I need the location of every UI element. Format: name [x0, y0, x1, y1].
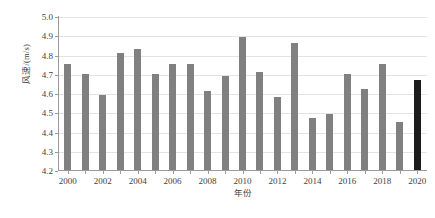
bar-2019	[396, 122, 403, 170]
x-tick-mark	[330, 171, 331, 174]
bar-2015	[326, 114, 333, 170]
bar-2006	[169, 64, 176, 170]
bar-2007	[187, 64, 194, 170]
x-tick-mark	[208, 171, 209, 174]
y-tick-label: 4.2	[42, 166, 53, 176]
bar-2003	[117, 53, 124, 170]
x-tick-label: 2006	[164, 176, 182, 186]
x-tick-mark	[85, 171, 86, 174]
y-tick-label: 4.4	[42, 128, 53, 138]
x-tick-mark	[347, 171, 348, 174]
x-tick-label: 2018	[373, 176, 391, 186]
bar-2002	[99, 95, 106, 170]
bar-2014	[309, 118, 316, 170]
y-tick-mark	[55, 133, 58, 134]
x-tick-mark	[138, 171, 139, 174]
bar-2000	[64, 64, 71, 170]
x-tick-mark	[277, 171, 278, 174]
bar-2004	[134, 49, 141, 170]
x-tick-mark	[155, 171, 156, 174]
y-axis-title: 风速/(m/s)	[19, 9, 31, 119]
x-tick-mark	[190, 171, 191, 174]
y-tick-label: 4.9	[42, 31, 53, 41]
x-tick-mark	[260, 171, 261, 174]
x-tick-label: 2004	[129, 176, 147, 186]
bar-2005	[152, 74, 159, 170]
x-tick-label: 2016	[338, 176, 356, 186]
y-tick-label: 4.6	[42, 89, 53, 99]
bar-2016	[344, 74, 351, 170]
x-tick-mark	[312, 171, 313, 174]
x-tick-mark	[68, 171, 69, 174]
wind-speed-bar-chart: 风速/(m/s) 5.04.94.84.74.64.54.44.34.2 200…	[0, 0, 435, 218]
x-tick-label: 2000	[59, 176, 77, 186]
x-tick-mark	[120, 171, 121, 174]
x-tick-label: 2014	[303, 176, 321, 186]
x-tick-label: 2012	[268, 176, 286, 186]
bar-2017	[361, 89, 368, 170]
y-tick-label: 4.3	[42, 147, 53, 157]
x-tick-label: 2002	[94, 176, 112, 186]
bars-group	[59, 16, 427, 170]
y-tick-label: 5.0	[42, 12, 53, 22]
x-tick-mark	[103, 171, 104, 174]
x-tick-mark	[173, 171, 174, 174]
y-tick-label: 4.7	[42, 70, 53, 80]
y-tick-mark	[55, 94, 58, 95]
x-tick-mark	[225, 171, 226, 174]
x-axis-title: 年份	[58, 186, 427, 198]
y-tick-label: 4.8	[42, 51, 53, 61]
bar-2010	[239, 37, 246, 170]
y-tick-mark	[55, 152, 58, 153]
y-tick-mark	[55, 17, 58, 18]
bar-2011	[256, 72, 263, 170]
y-tick-mark	[55, 56, 58, 57]
x-tick-mark	[400, 171, 401, 174]
x-tick-mark	[295, 171, 296, 174]
x-tick-label: 2010	[234, 176, 252, 186]
y-tick-mark	[55, 75, 58, 76]
bar-2001	[82, 74, 89, 170]
x-tick-label: 2020	[408, 176, 426, 186]
x-tick-mark	[417, 171, 418, 174]
bar-2020	[414, 80, 421, 170]
x-tick-mark	[382, 171, 383, 174]
bar-2018	[379, 64, 386, 170]
x-tick-mark	[365, 171, 366, 174]
bar-2012	[274, 97, 281, 170]
y-tick-mark	[55, 36, 58, 37]
bar-2008	[204, 91, 211, 170]
x-tick-label: 2008	[199, 176, 217, 186]
y-tick-label: 4.5	[42, 108, 53, 118]
bar-2009	[222, 76, 229, 170]
y-tick-mark	[55, 113, 58, 114]
x-tick-mark	[243, 171, 244, 174]
plot-area: 5.04.94.84.74.64.54.44.34.2	[58, 16, 427, 171]
bar-2013	[291, 43, 298, 170]
